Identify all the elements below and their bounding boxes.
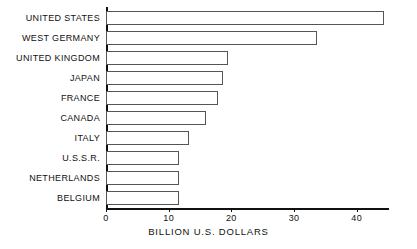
x-tick-label: 10 [163, 213, 174, 223]
bar [106, 191, 179, 205]
category-label: U.S.S.R. [62, 151, 100, 165]
category-label: JAPAN [70, 71, 100, 85]
x-tick-label: 40 [351, 213, 362, 223]
bar-chart: UNITED STATESWEST GERMANYUNITED KINGDOMJ… [0, 0, 417, 249]
category-label: UNITED STATES [26, 11, 100, 25]
plot-area [106, 8, 388, 208]
bar-series [106, 8, 388, 208]
bar [106, 91, 218, 105]
x-tick-mark [294, 208, 295, 212]
bar [106, 131, 189, 145]
category-label: CANADA [60, 111, 100, 125]
x-tick-label: 30 [289, 213, 300, 223]
bar [106, 171, 179, 185]
category-label: BELGIUM [57, 191, 100, 205]
bar [106, 31, 317, 45]
bar [106, 71, 223, 85]
bar [106, 51, 228, 65]
x-tick-mark [106, 208, 107, 212]
bar [106, 151, 179, 165]
category-label: FRANCE [61, 91, 100, 105]
category-label: WEST GERMANY [22, 31, 100, 45]
x-tick-mark [169, 208, 170, 212]
x-tick-label: 0 [103, 213, 108, 223]
bar [106, 111, 206, 125]
category-label: ITALY [75, 131, 100, 145]
category-axis-labels: UNITED STATESWEST GERMANYUNITED KINGDOMJ… [0, 8, 104, 208]
category-label: UNITED KINGDOM [16, 51, 100, 65]
x-tick-label: 20 [226, 213, 237, 223]
x-axis-title: BILLION U.S. DOLLARS [0, 226, 417, 237]
bar [106, 11, 384, 25]
x-tick-mark [357, 208, 358, 212]
x-axis-ticks: 010203040 [106, 208, 389, 226]
x-tick-mark [231, 208, 232, 212]
category-label: NETHERLANDS [29, 171, 100, 185]
